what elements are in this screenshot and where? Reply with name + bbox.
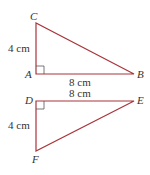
vertex-label-d: D: [24, 94, 33, 106]
vertex-label-e: E: [136, 94, 144, 106]
right-angle-marker-d: [36, 101, 44, 109]
side-label-ca: 4 cm: [8, 42, 30, 54]
triangle-def: D E F 4 cm 8 cm: [8, 87, 144, 165]
vertex-label-b: B: [137, 68, 144, 80]
triangle-abc: C A B 4 cm 8 cm: [8, 10, 144, 88]
side-label-df: 4 cm: [8, 119, 30, 131]
vertex-label-a: A: [24, 68, 32, 80]
right-angle-marker-a: [36, 66, 44, 74]
vertex-label-c: C: [30, 10, 38, 22]
triangle-abc-shape: [36, 23, 134, 74]
side-label-de: 8 cm: [69, 87, 91, 99]
vertex-label-f: F: [31, 153, 39, 165]
triangle-def-shape: [36, 101, 134, 151]
triangles-diagram: C A B 4 cm 8 cm D E F 4 cm 8 cm: [0, 0, 150, 175]
